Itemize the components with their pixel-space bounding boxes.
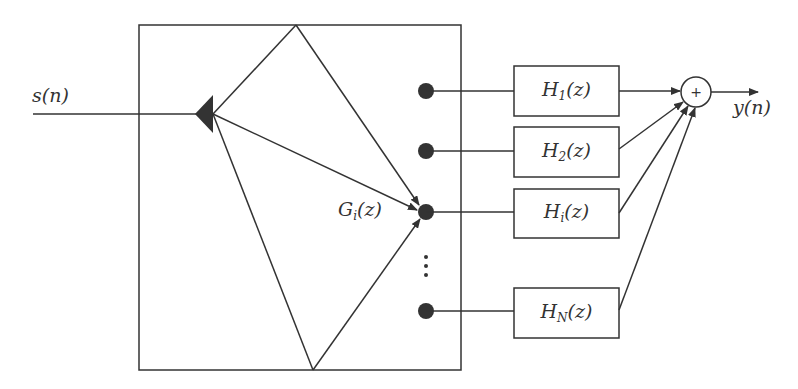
- sum-input-n: [619, 108, 695, 310]
- filter-label-h2: H2(z): [514, 141, 619, 163]
- filter-label-tail: (z): [566, 139, 591, 161]
- input-label: s(n): [32, 86, 69, 105]
- filter-label-sub: N: [557, 311, 568, 325]
- filter-label-tail: (z): [566, 78, 591, 100]
- splitter-triangle-icon: [195, 95, 213, 133]
- filter-label-h1: H1(z): [514, 80, 619, 102]
- filter-label-hn: HN(z): [514, 302, 619, 324]
- ellipsis-dot: [424, 264, 428, 268]
- distributor-label-main: G: [338, 198, 353, 220]
- sum-input-2: [619, 102, 683, 149]
- distributor-label: Gi(z): [338, 200, 382, 222]
- filter-label-main: H: [541, 300, 558, 322]
- filter-label-tail: (z): [568, 300, 593, 322]
- path-to-top-apex: [213, 25, 296, 114]
- path-top-apex-to-node: [296, 25, 419, 205]
- path-to-bottom-apex: [213, 114, 313, 370]
- filter-label-main: H: [542, 78, 559, 100]
- ellipsis-dot: [424, 255, 428, 259]
- sum-input-i: [619, 106, 688, 213]
- summer-plus-symbol: +: [681, 85, 711, 99]
- filter-label-main: H: [544, 200, 561, 222]
- filter-label-main: H: [542, 139, 559, 161]
- distributor-box: [139, 25, 461, 370]
- output-label: y(n): [733, 98, 771, 117]
- path-direct-to-node: [213, 114, 417, 210]
- block-diagram-canvas: [0, 0, 798, 389]
- distributor-label-tail: (z): [357, 198, 382, 220]
- filter-label-tail: (z): [564, 200, 589, 222]
- filter-label-hi: Hi(z): [514, 202, 619, 224]
- path-bottom-apex-to-node: [313, 219, 420, 370]
- ellipsis-dot: [424, 273, 428, 277]
